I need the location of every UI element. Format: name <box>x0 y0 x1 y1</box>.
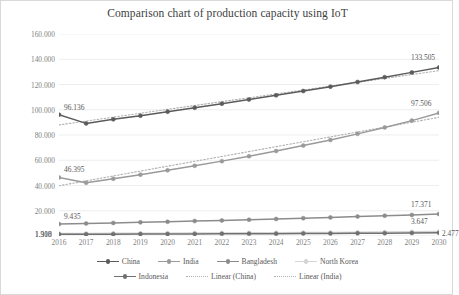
x-axis-tick-label: 2030 <box>432 238 447 247</box>
x-axis-tick-label: 2025 <box>296 238 311 247</box>
legend-label: Indonesia <box>139 272 169 281</box>
indonesia-end-label: 2.477 <box>442 229 459 238</box>
y-axis-tick-label: 140.000 <box>31 55 55 64</box>
china-start-label: 96.136 <box>64 103 84 112</box>
y-axis-tick-label: 40.000 <box>35 181 55 190</box>
x-axis-tick-label: 2027 <box>350 238 365 247</box>
x-axis-tick-label: 2024 <box>269 238 284 247</box>
x-axis: 2016201720182019202020212022202320242025… <box>59 238 439 250</box>
y-axis-tick-label: 60.000 <box>35 156 55 165</box>
indonesia-start-label: 1.318 <box>35 230 52 239</box>
legend-label: North Korea <box>320 257 358 266</box>
legend-swatch-icon <box>186 273 208 280</box>
x-axis-tick-label: 2016 <box>52 238 67 247</box>
legend-item[interactable]: Bangladesh <box>217 257 277 266</box>
y-axis-tick-label: 20.000 <box>35 206 55 215</box>
india-end-label: 97.506 <box>411 99 431 108</box>
legend-item[interactable]: Linear (China) <box>186 272 256 281</box>
chart-legend: ChinaIndiaBangladeshNorth Korea Indonesi… <box>1 257 454 291</box>
x-axis-tick-label: 2023 <box>242 238 257 247</box>
x-axis-tick-label: 2029 <box>404 238 419 247</box>
china-end-label: 133.505 <box>411 53 435 62</box>
y-axis-tick-label: 160.000 <box>31 30 55 39</box>
legend-swatch-icon <box>97 258 119 265</box>
northkorea-end-label: 3.647 <box>411 217 428 226</box>
bangladesh-start-label: 9.435 <box>64 212 81 221</box>
legend-label: Bangladesh <box>242 257 277 266</box>
legend-row-top: ChinaIndiaBangladeshNorth Korea <box>1 257 454 266</box>
legend-swatch-icon <box>274 273 296 280</box>
legend-label: India <box>183 257 199 266</box>
x-axis-tick-label: 2017 <box>79 238 94 247</box>
x-axis-tick-label: 2021 <box>187 238 202 247</box>
x-axis-tick-label: 2020 <box>160 238 175 247</box>
y-axis-tick-label: 100.000 <box>31 105 55 114</box>
legend-swatch-icon <box>295 258 317 265</box>
chart-canvas <box>59 34 439 236</box>
legend-row-bottom: IndonesiaLinear (China)Linear (India) <box>1 272 454 281</box>
legend-swatch-icon <box>158 258 180 265</box>
x-axis-tick-label: 2018 <box>106 238 121 247</box>
y-axis-tick-label: 80.000 <box>35 131 55 140</box>
plot-area: 96.136133.50546.39597.5069.43517.3711.90… <box>59 34 439 236</box>
india-start-label: 46.395 <box>64 165 84 174</box>
legend-item[interactable]: North Korea <box>295 257 358 266</box>
chart-title: Comparison chart of production capacity … <box>1 7 454 19</box>
y-axis: 020.00040.00060.00080.000100.000120.0001… <box>1 34 55 236</box>
legend-label: Linear (China) <box>211 272 256 281</box>
legend-swatch-icon <box>114 273 136 280</box>
x-axis-tick-label: 2028 <box>377 238 392 247</box>
x-axis-tick-label: 2022 <box>214 238 229 247</box>
legend-item[interactable]: Linear (India) <box>274 272 341 281</box>
legend-label: China <box>122 257 140 266</box>
y-axis-tick-label: 120.000 <box>31 80 55 89</box>
legend-label: Linear (India) <box>299 272 341 281</box>
legend-swatch-icon <box>217 258 239 265</box>
x-axis-tick-label: 2019 <box>133 238 148 247</box>
legend-item[interactable]: India <box>158 257 199 266</box>
legend-item[interactable]: Indonesia <box>114 272 169 281</box>
x-axis-tick-label: 2026 <box>323 238 338 247</box>
legend-item[interactable]: China <box>97 257 140 266</box>
bangladesh-end-label: 17.371 <box>411 200 431 209</box>
